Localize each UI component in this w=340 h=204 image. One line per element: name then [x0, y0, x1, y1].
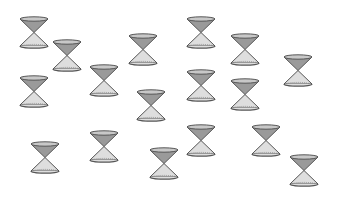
- double-cone-icon: [19, 75, 49, 108]
- double-cone-icon: [186, 69, 216, 102]
- double-cone-icon: [289, 154, 319, 187]
- double-cone-icon: [128, 33, 158, 66]
- double-cone-icon: [30, 141, 60, 174]
- double-cone-icon: [89, 130, 119, 163]
- double-cone-icon: [136, 89, 166, 122]
- double-cone-icon: [283, 54, 313, 87]
- double-cone-icon: [89, 64, 119, 97]
- double-cone-icon: [251, 124, 281, 157]
- double-cone-icon: [52, 39, 82, 72]
- double-cone-icon: [230, 33, 260, 66]
- double-cone-icon: [19, 16, 49, 49]
- double-cone-icon: [149, 147, 179, 180]
- double-cone-icon: [186, 16, 216, 49]
- double-cone-icon: [186, 124, 216, 157]
- double-cone-icon: [230, 78, 260, 111]
